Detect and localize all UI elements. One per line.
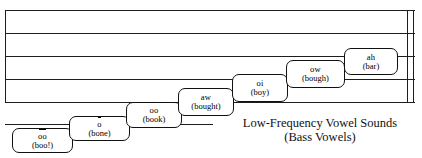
vowel-symbol: o	[97, 120, 101, 129]
vowel-box-bar: ah (bar)	[344, 48, 398, 75]
vowel-box-bought: aw (bought)	[178, 88, 234, 116]
vowel-example-word: (boy)	[251, 88, 269, 97]
staff-barline-end-thin	[407, 10, 408, 103]
vowel-box-book: ̆oo (book)	[126, 102, 182, 128]
vowel-example-word: (boo!)	[32, 141, 53, 150]
caption-title: Low-Frequency Vowel Sounds	[222, 116, 418, 130]
vowel-symbol: ah	[367, 53, 375, 62]
vowel-box-bone: o (bone)	[69, 116, 130, 141]
vowel-example-word: (bough)	[302, 74, 329, 83]
vowel-example-word: (bar)	[363, 62, 380, 71]
vowel-box-boo: oo (boo!)	[12, 128, 73, 153]
vowel-box-boy: oi (boy)	[232, 74, 288, 102]
vowel-box-bough: ow (bough)	[286, 60, 345, 88]
vowel-symbol: ̆oo	[150, 106, 159, 115]
vowel-example-word: (bone)	[88, 129, 110, 138]
staff-barline-end-outer	[413, 10, 414, 103]
caption-subtitle: (Bass Vowels)	[222, 130, 418, 144]
staff-line-1	[5, 10, 415, 11]
vowel-pitch-staff-figure: oo (boo!) o (bone) ̆oo (book) aw (bought…	[0, 0, 422, 158]
vowel-symbol: oo	[38, 132, 47, 141]
staff-barline-left	[5, 10, 6, 103]
staff-line-2	[5, 33, 415, 34]
staff-line-4	[5, 79, 415, 80]
vowel-example-word: (bought)	[191, 102, 220, 111]
figure-caption: Low-Frequency Vowel Sounds (Bass Vowels)	[222, 116, 418, 144]
vowel-example-word: (book)	[143, 115, 166, 124]
